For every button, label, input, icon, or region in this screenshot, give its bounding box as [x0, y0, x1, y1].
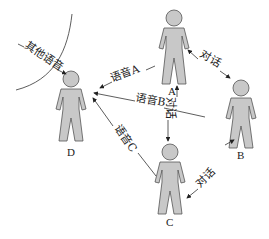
- arrow-speech-c: [93, 98, 113, 126]
- label-a: A: [168, 85, 176, 97]
- person-a: [159, 10, 189, 84]
- label-c: C: [166, 216, 173, 228]
- arrow-dialog-ab: [188, 50, 198, 59]
- label-other-speech: 其他语音: [22, 38, 66, 74]
- arrow-speech-b: [94, 93, 135, 101]
- label-speech-a: 语音A: [108, 61, 142, 85]
- arrow-speech-a: [100, 82, 112, 88]
- label-speech-b: 语音B: [134, 90, 166, 109]
- arrow-other-speech: [18, 44, 24, 47]
- label-b: B: [237, 149, 244, 161]
- person-b: [226, 80, 256, 148]
- label-dialog-ab: 对话: [198, 46, 224, 69]
- person-c: [155, 144, 185, 214]
- person-d: [56, 71, 86, 141]
- label-dialog-bc: 对话: [192, 165, 217, 190]
- speech-diagram: A B C D 其他语音 语音A 语音B 语音C 对话 对话 对话: [0, 0, 269, 239]
- label-speech-c: 语音C: [112, 122, 141, 155]
- label-dialog-ac: 对话: [164, 97, 178, 119]
- label-d: D: [67, 146, 75, 158]
